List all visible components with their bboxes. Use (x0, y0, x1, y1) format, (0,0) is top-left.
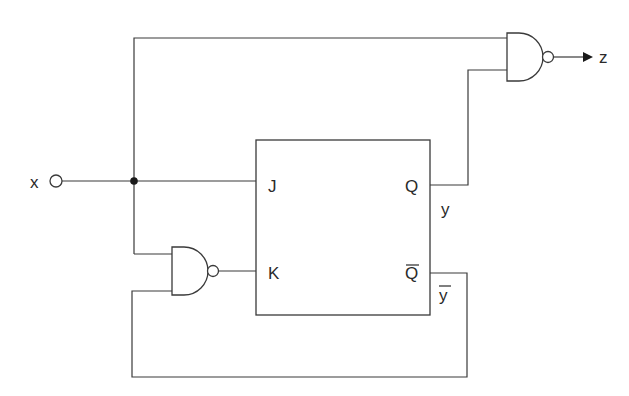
input-label: x (30, 173, 39, 192)
pin-k-label: K (268, 264, 280, 283)
pin-j-label: J (268, 177, 277, 196)
k-nand-gate (172, 247, 219, 295)
output-arrow-icon (583, 52, 593, 62)
jk-flip-flop (256, 140, 430, 315)
output-label: z (599, 48, 608, 67)
input-terminal-icon (50, 175, 62, 187)
pin-q-label: Q (405, 177, 418, 196)
pin-qbar-label: Q (405, 264, 418, 283)
circuit-diagram: x J K Q Q y y z (0, 0, 629, 396)
output-nand-gate (507, 33, 554, 81)
junction-dot (130, 177, 138, 185)
signal-ybar-label: y (439, 286, 448, 305)
nand-body-icon (507, 33, 543, 81)
inversion-bubble-icon (543, 52, 554, 63)
signal-y-label: y (441, 200, 450, 219)
inversion-bubble-icon (208, 266, 219, 277)
nand-body-icon (172, 247, 208, 295)
wire-q-to-output-nand (430, 70, 507, 185)
